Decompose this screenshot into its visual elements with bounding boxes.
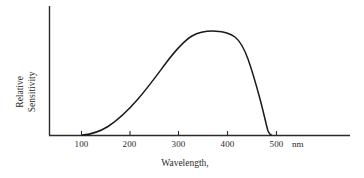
x-axis-title-text: Wavelength,	[161, 158, 209, 168]
x-tick-label-400: 400	[213, 139, 242, 149]
y-axis-title-line2: Sensitivity	[27, 72, 39, 113]
x-tick-label-200: 200	[115, 139, 144, 149]
y-axis-title-line1: Relative	[15, 76, 27, 108]
x-tick-label-100: 100	[67, 139, 96, 149]
y-axis-title: Relative Sensitivity	[8, 46, 46, 138]
sensitivity-curve	[83, 31, 272, 135]
x-axis-unit-label: nm	[292, 139, 304, 149]
x-axis-title: Wavelength,	[0, 158, 364, 168]
plot-canvas	[0, 0, 364, 178]
spectral-sensitivity-chart: 100 200 300 400 500 nm Wavelength, Relat…	[0, 0, 364, 178]
x-tick-label-500: 500	[262, 139, 291, 149]
x-tick-label-300: 300	[164, 139, 193, 149]
